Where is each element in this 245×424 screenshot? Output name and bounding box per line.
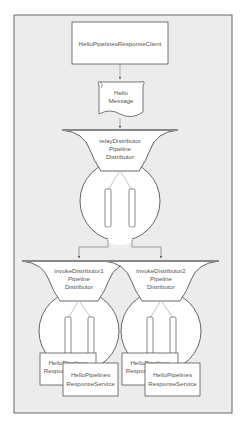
invoke1-label-line3: Distributor [65,283,93,290]
pipeline-diagram: HelloPipelinesResponseClient Hello Messa… [0,0,245,424]
message-label-line2: Message [108,97,134,104]
invoke2-label-line1: invokeDistributor2 [136,267,186,274]
message-label-line1: Hello [114,89,129,96]
client-node: HelloPipelinesResponseClient [72,22,168,64]
service-node-1b: HelloPipelines ResponseService [63,363,118,396]
relay-label-line3: Distributor [106,153,134,160]
service-node-2b: HelloPipelines ResponseService [145,363,200,396]
message-node: Hello Message [98,82,144,117]
pipe-left [105,189,111,227]
relay-label-line2: Pipeline [109,145,132,152]
relay-label-line1: relayDistributor [99,137,141,144]
svg-text:HelloPipelines: HelloPipelines [71,371,110,378]
pipe-right [129,189,135,227]
invoke1-label-line1: invokeDistributor1 [54,267,104,274]
invoke1-label-line2: Pipeline [68,275,91,282]
invoke2-label-line3: Distributor [147,283,175,290]
invoke2-label-line2: Pipeline [150,275,173,282]
svg-text:ResponseService: ResponseService [148,380,197,387]
client-label: HelloPipelinesResponseClient [79,40,162,47]
svg-text:HelloPipelines: HelloPipelines [153,371,192,378]
svg-text:ResponseService: ResponseService [66,380,115,387]
